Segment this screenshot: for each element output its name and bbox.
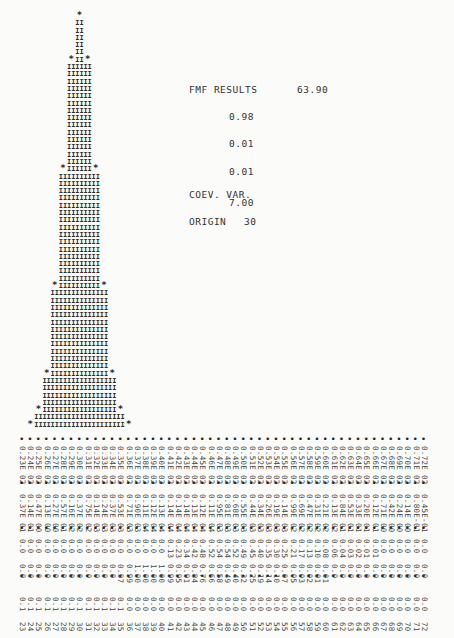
bar-segment: II <box>59 260 67 268</box>
bar-segment: II <box>83 282 91 290</box>
row-b-value: 0.45E-01 <box>420 494 429 533</box>
bar-segment: II <box>75 165 83 173</box>
bar-segment: II <box>51 340 59 348</box>
separator-dot: • <box>380 434 385 444</box>
bar-segment: II <box>67 413 75 421</box>
separator-dot: • <box>101 434 106 444</box>
separator-dot: • <box>314 434 319 444</box>
histogram-bar: IIII* <box>34 404 42 429</box>
bar-segment: II <box>59 326 67 334</box>
bar-segment: II <box>92 282 100 290</box>
bar-segment: II <box>67 85 75 93</box>
separator-dot: • <box>68 434 73 444</box>
bar-segment: II <box>42 413 50 421</box>
bar-segment: II <box>59 399 67 407</box>
bar-segment: II <box>42 392 50 400</box>
bar-segment: II <box>75 100 83 108</box>
bar-segment: II <box>75 158 83 166</box>
bar-segment: II <box>83 78 91 86</box>
separator-dot: • <box>232 434 237 444</box>
bar-segment: II <box>67 333 75 341</box>
bar-segment: II <box>51 392 59 400</box>
bar-segment: II <box>75 238 83 246</box>
histogram-bar: IIII* <box>116 404 124 429</box>
bar-segment: II <box>75 143 83 151</box>
bar-segment: II <box>59 311 67 319</box>
bar-segment: II <box>75 392 83 400</box>
histogram-bar: IIIIIIIIIIIIIIIIIIIIIIIIIIIIIIIIIIIIIIII… <box>67 54 75 429</box>
bar-segment: II <box>75 370 83 378</box>
bar-segment: II <box>75 224 83 232</box>
bar-segment: II <box>100 304 108 312</box>
bar-segment: II <box>75 377 83 385</box>
bar-segment: II <box>75 136 83 144</box>
bar-segment: II <box>59 370 67 378</box>
separator-dot: • <box>150 434 155 444</box>
bar-segment: II <box>92 216 100 224</box>
separator-dot: • <box>396 434 401 444</box>
bar-segment: II <box>67 158 75 166</box>
results-label: FMF RESULTS <box>189 84 257 95</box>
bar-segment: II <box>67 114 75 122</box>
bar-segment: II <box>67 165 75 173</box>
bar-segment: II <box>100 340 108 348</box>
bar-segment: II <box>83 413 91 421</box>
histogram-bar: IIIIIIIIIIIIIIIIIIIIIIIIIIIIIIIIIIIIIIII… <box>83 54 91 429</box>
bar-segment: II <box>59 413 67 421</box>
bar-segment: II <box>67 180 75 188</box>
bar-segment: II <box>75 362 83 370</box>
separator-dot: • <box>199 434 204 444</box>
separator-dot: • <box>347 434 352 444</box>
histogram-bar: * <box>126 419 131 429</box>
bar-segment: II <box>92 180 100 188</box>
bar-segment: II <box>83 187 91 195</box>
bar-segment: II <box>83 246 91 254</box>
bar-segment: II <box>67 384 75 392</box>
bar-segment: II <box>75 114 83 122</box>
results-value-2: 0.01 <box>229 138 254 149</box>
bar-segment: II <box>59 421 67 429</box>
row-a-value: 0.72E 02 <box>420 446 429 485</box>
bar-segment: II <box>59 202 67 210</box>
bar-segment: II <box>75 151 83 159</box>
bar-segment: II <box>75 107 83 115</box>
bar-segment: II <box>83 340 91 348</box>
bar-segment: II <box>116 413 124 421</box>
bar-segment: II <box>100 370 108 378</box>
bar-segment: II <box>92 421 100 429</box>
bar-segment: II <box>59 173 67 181</box>
bar-segment: II <box>67 253 75 261</box>
separator-dot: • <box>355 434 360 444</box>
bar-segment: II <box>51 421 59 429</box>
separator-dot: • <box>117 434 122 444</box>
bar-segment: II <box>108 392 116 400</box>
separator-dot: • <box>281 434 286 444</box>
bar-segment: II <box>92 319 100 327</box>
bar-segment: II <box>59 297 67 305</box>
separator-dot: • <box>85 434 90 444</box>
bar-segment: II <box>83 260 91 268</box>
bar-segment: II <box>34 413 42 421</box>
bar-segment: II <box>42 399 50 407</box>
bar-top-marker: * <box>118 404 123 414</box>
bar-segment: II <box>59 231 67 239</box>
bar-segment: II <box>59 384 67 392</box>
bar-segment: II <box>108 406 116 414</box>
bar-segment: II <box>100 399 108 407</box>
bar-segment: II <box>92 392 100 400</box>
separator-dot: • <box>167 434 172 444</box>
bar-segment: II <box>83 370 91 378</box>
bar-segment: II <box>83 333 91 341</box>
bar-segment: II <box>67 173 75 181</box>
bar-segment: II <box>92 377 100 385</box>
bar-segment: II <box>67 267 75 275</box>
bar-segment: II <box>67 202 75 210</box>
bar-segment: II <box>67 224 75 232</box>
bar-segment: II <box>92 355 100 363</box>
bar-segment: II <box>83 63 91 71</box>
separator-dot: • <box>421 434 426 444</box>
bar-segment: II <box>83 319 91 327</box>
bar-top-marker: * <box>44 368 49 378</box>
bar-top-marker: * <box>109 368 114 378</box>
separator-dot: • <box>35 434 40 444</box>
